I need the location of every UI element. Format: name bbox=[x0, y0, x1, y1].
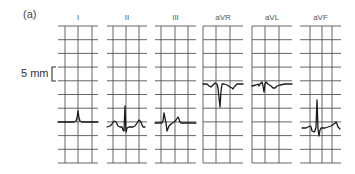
lead-label-avl: aVL bbox=[252, 13, 292, 22]
lead-label-ii: II bbox=[107, 13, 147, 22]
lead-label-iii: III bbox=[156, 13, 196, 22]
lead-panel-i bbox=[58, 26, 98, 163]
lead-panel-ii bbox=[107, 26, 147, 163]
lead-panels bbox=[58, 26, 341, 163]
lead-panel-avl bbox=[252, 26, 292, 163]
lead-panel-iii bbox=[155, 26, 196, 163]
ecg-grid-canvas bbox=[0, 0, 355, 174]
ecg-trace-avl bbox=[252, 82, 292, 92]
ecg-figure: (a) 5 mm IIIIIIaVRaVLaVF bbox=[0, 0, 355, 174]
scale-bracket bbox=[52, 67, 56, 81]
ecg-trace-avf bbox=[302, 100, 340, 136]
scale-bracket-icon bbox=[52, 67, 56, 81]
lead-panel-avr bbox=[203, 26, 243, 163]
ecg-trace-avr bbox=[203, 83, 243, 107]
lead-panel-avf bbox=[300, 26, 341, 163]
lead-label-i: I bbox=[58, 13, 98, 22]
lead-label-avr: aVR bbox=[203, 13, 243, 22]
lead-label-avf: aVF bbox=[301, 13, 341, 22]
